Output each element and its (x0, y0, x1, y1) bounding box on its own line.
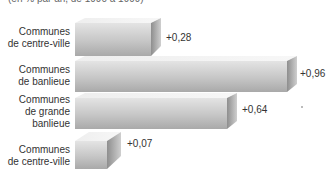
value-label: +0,64 (242, 104, 267, 115)
bar-row: Communes de centre-ville +0,28 (0, 18, 334, 56)
category-label: Communes de centre-ville (8, 144, 70, 168)
value-label: +0,96 (300, 68, 325, 79)
bar (75, 93, 237, 129)
bar-row: Communes de centre-ville +0,07 (0, 132, 334, 169)
bar (75, 132, 121, 169)
bar-row: Communes de grande banlieue +0,64 (0, 93, 334, 129)
chart-subtitle: (en % par an, de 1990 à 1999) (8, 0, 144, 4)
value-label: +0,28 (166, 32, 191, 43)
value-label: +0,07 (127, 138, 152, 149)
bar (75, 18, 161, 56)
category-label: Communes de centre-ville (8, 26, 70, 50)
category-label: Communes de grande banlieue (19, 94, 70, 130)
stray-mark (301, 106, 303, 108)
bar-row: Communes de banlieue +0,96 (0, 56, 334, 92)
bar (75, 56, 297, 92)
category-label: Communes de banlieue (18, 64, 70, 88)
